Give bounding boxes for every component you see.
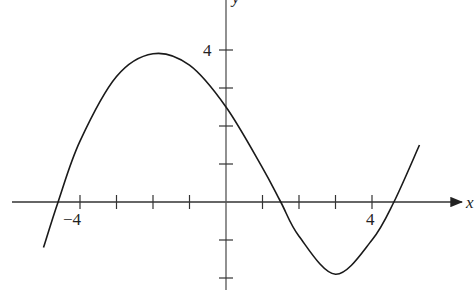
function-graph: −4 4 4 x y — [0, 0, 474, 290]
x-tick-label-neg4: −4 — [63, 210, 82, 229]
x-tick-label-4: 4 — [366, 210, 375, 229]
x-axis-label: x — [465, 193, 474, 212]
y-tick-label-4: 4 — [203, 41, 212, 60]
y-axis-label: y — [230, 0, 240, 7]
